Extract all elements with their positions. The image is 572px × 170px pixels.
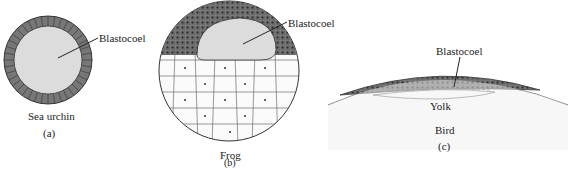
blastocoel-label-c: Blastocoel [436, 46, 482, 57]
organism-label-c: Bird [435, 125, 455, 136]
sea-urchin-blastula [4, 16, 98, 104]
panel-letter-a: (a) [43, 128, 55, 139]
blastula-diagram [0, 0, 572, 170]
panel-letter-c: (c) [438, 141, 450, 152]
panel-letter-b: (b) [224, 158, 236, 168]
blastocoel-label-b: Blastocoel [288, 18, 334, 29]
organism-label-a: Sea urchin [28, 111, 75, 122]
yolk-label: Yolk [430, 101, 451, 112]
frog-blastula [159, 0, 300, 145]
blastocoel-label-a: Blastocoel [99, 33, 145, 44]
